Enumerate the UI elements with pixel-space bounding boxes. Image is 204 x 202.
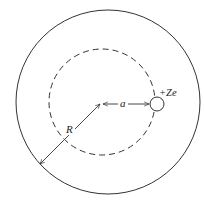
charge-label: +Ze — [159, 87, 177, 98]
outer-radius-label: R — [65, 123, 73, 135]
nucleus-diagram: a R +Ze — [0, 0, 204, 202]
charge-circle — [150, 97, 164, 111]
outer-circle — [16, 10, 200, 194]
orbit-radius-label: a — [120, 97, 126, 109]
